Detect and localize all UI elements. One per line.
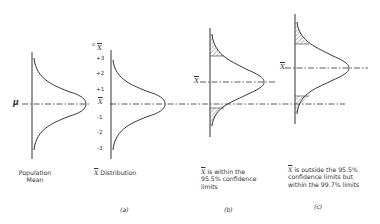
tick-plus3: +3 xyxy=(96,55,104,61)
outside-xbar-label: X xyxy=(280,63,285,71)
tick-minus3: -3 xyxy=(97,145,103,151)
tick-xbar: X xyxy=(98,98,103,106)
xbar-caption-text: Distribution xyxy=(98,169,136,176)
population-caption-line2: Mean xyxy=(27,176,44,183)
panel-label-c: (c) xyxy=(314,203,322,210)
sigma-label: σ xyxy=(92,42,95,47)
within-xbar-label: X xyxy=(194,77,199,85)
outside-caption: X is outside the 95.5% confidence limits… xyxy=(288,166,360,188)
xbar-curve xyxy=(113,60,165,150)
tick-plus2: +2 xyxy=(96,70,104,76)
tick-plus1: +1 xyxy=(96,86,104,92)
xbar-caption: X Distribution xyxy=(94,169,136,176)
outside-caption-text: is outside the 95.5% confidence limits b… xyxy=(288,166,359,188)
tick-minus1: -1 xyxy=(97,114,103,120)
diagram-canvas xyxy=(0,0,380,224)
population-caption: Population Mean xyxy=(14,169,56,184)
within-caption-symbol: X xyxy=(201,168,205,175)
mu-label: μ xyxy=(13,99,19,106)
population-caption-line1: Population xyxy=(19,169,52,176)
panel-label-b: (b) xyxy=(224,206,233,213)
within-curve xyxy=(212,34,264,126)
within-caption: X is within the 95.5% confidence limits xyxy=(201,168,259,190)
within-caption-text: is within the 95.5% confidence limits xyxy=(201,168,257,190)
xbar-axis-title: X xyxy=(97,44,102,52)
tick-minus2: -2 xyxy=(97,129,103,135)
panel-label-a: (a) xyxy=(120,206,129,213)
outside-caption-symbol: X xyxy=(288,166,292,173)
